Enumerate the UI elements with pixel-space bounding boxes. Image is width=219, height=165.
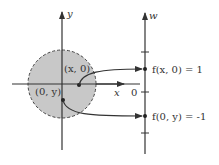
w-point-neg1 <box>143 114 147 118</box>
function-mapping-diagram: x y (x, 0) (0, y) w 0 f(x, 0) = 1 f(0, y… <box>0 0 219 165</box>
point-x0-label: (x, 0) <box>64 63 90 74</box>
w-point-1 <box>143 67 147 71</box>
w-axis-label: w <box>149 10 158 21</box>
point-0y-label: (0, y) <box>35 86 61 97</box>
f-x0-label: f(x, 0) = 1 <box>152 64 203 75</box>
x-axis-label: x <box>114 87 120 98</box>
y-axis-label: y <box>66 8 73 19</box>
w-axis <box>141 13 149 154</box>
w-zero-label: 0 <box>131 87 137 98</box>
f-0y-label: f(0, y) = -1 <box>152 111 206 122</box>
